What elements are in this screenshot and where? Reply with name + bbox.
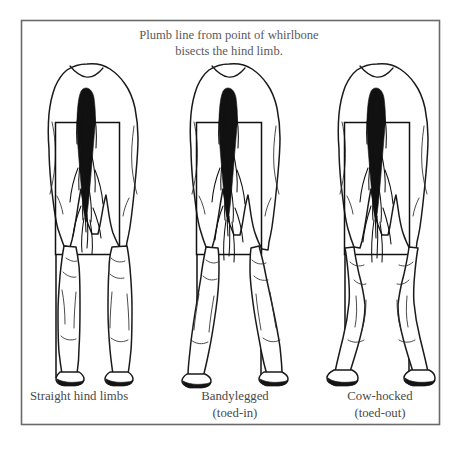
hind-limb-left-1 — [58, 246, 80, 374]
title-line-1: Plumb line from point of whirlbone — [139, 28, 319, 42]
caption-line-2-figure-2: (toed-in) — [213, 406, 258, 420]
horse-body-outline-2 — [190, 64, 280, 250]
horse-body-outline-3 — [338, 64, 428, 250]
illustration-canvas: Plumb line from point of whirlbone bisec… — [0, 0, 458, 453]
figure-plate: Plumb line from point of whirlbone bisec… — [0, 0, 458, 453]
caption-line-1-figure-2: Bandylegged — [201, 389, 269, 403]
horse-body-outline-1 — [48, 64, 138, 249]
caption-line-2-figure-3: (toed-out) — [354, 406, 405, 420]
title-line-2: bisects the hind limb. — [175, 44, 283, 58]
caption-line-1-figure-3: Cow-hocked — [347, 389, 413, 403]
caption-line-1-figure-1: Straight hind limbs — [30, 389, 128, 403]
